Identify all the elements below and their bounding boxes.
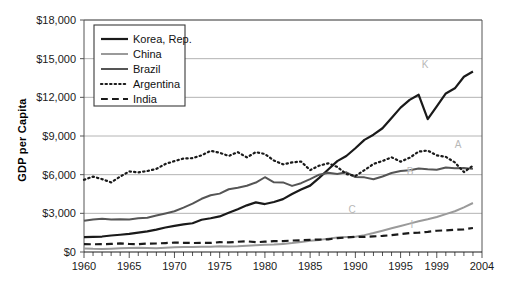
- legend-label: Argentina: [133, 78, 181, 90]
- y-tick-label: $18,000: [36, 14, 76, 26]
- x-tick-label: 1960: [72, 260, 96, 272]
- x-tick-label: 1980: [253, 260, 277, 272]
- gdp-per-capita-line-chart: KCBAI $0$3,000$6,000$9,000$12,000$15,000…: [0, 0, 512, 287]
- legend-label: India: [133, 93, 158, 105]
- x-tick-label: 2004: [470, 260, 494, 272]
- y-tick-label: $3,000: [42, 207, 76, 219]
- y-axis-title: GDP per Capita: [16, 98, 28, 182]
- legend-label: Korea, Rep.: [133, 33, 192, 45]
- y-tick-label: $9,000: [42, 130, 76, 142]
- x-tick-label: 1965: [117, 260, 141, 272]
- x-tick-label: 1985: [298, 260, 322, 272]
- chart-canvas: KCBAI $0$3,000$6,000$9,000$12,000$15,000…: [0, 0, 512, 287]
- x-tick-label: 1995: [388, 260, 412, 272]
- y-tick-label: $6,000: [42, 169, 76, 181]
- y-tick-label: $0: [64, 246, 76, 258]
- series-annotation-A: A: [455, 139, 462, 150]
- x-tick-label: 1970: [162, 260, 186, 272]
- legend-label: Brazil: [133, 63, 161, 75]
- y-tick-label: $12,000: [36, 91, 76, 103]
- x-tick-label: 1990: [343, 260, 367, 272]
- y-tick-label: $15,000: [36, 53, 76, 65]
- series-annotation-C: C: [348, 204, 355, 215]
- x-tick-label: 1999: [425, 260, 449, 272]
- chart-legend: Korea, Rep.ChinaBrazilArgentinaIndia: [94, 25, 192, 106]
- x-tick-label: 1975: [207, 260, 231, 272]
- series-annotation-K: K: [422, 59, 429, 70]
- legend-label: China: [133, 48, 163, 60]
- series-annotation-B: B: [407, 166, 414, 177]
- series-annotation-I: I: [411, 219, 414, 230]
- chart-background: [0, 0, 512, 287]
